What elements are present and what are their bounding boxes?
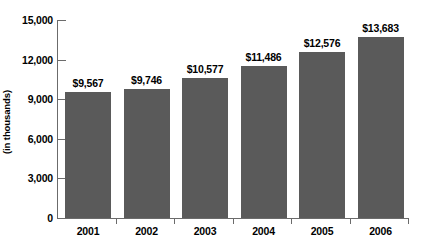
y-axis-tick-label: 12,000 xyxy=(9,55,53,66)
bar-value-label: $13,683 xyxy=(351,23,411,34)
bar xyxy=(124,89,170,218)
y-axis-tick-label: 6,000 xyxy=(9,134,53,145)
y-axis-tick-label: 3,000 xyxy=(9,173,53,184)
x-axis-tick-mark xyxy=(350,219,351,224)
x-axis-tick-mark xyxy=(116,219,117,224)
bars-layer xyxy=(57,20,409,218)
bar-chart: (in thousands) 03,0006,0009,00012,00015,… xyxy=(0,0,421,248)
x-axis-tick-label: 2002 xyxy=(117,226,177,237)
x-axis-tick-label: 2001 xyxy=(58,226,118,237)
y-axis-tick-labels: 03,0006,0009,00012,00015,000 xyxy=(8,0,53,248)
bar-value-label: $9,746 xyxy=(117,75,177,86)
x-axis-tick-mark xyxy=(174,219,175,224)
bar xyxy=(65,92,111,218)
bar xyxy=(358,37,404,218)
bar xyxy=(241,66,287,218)
bar-value-label: $12,576 xyxy=(292,38,352,49)
bar-value-label: $10,577 xyxy=(175,64,235,75)
bar-value-label: $11,486 xyxy=(234,52,294,63)
x-axis-tick-label: 2004 xyxy=(234,226,294,237)
x-axis-tick-label: 2003 xyxy=(175,226,235,237)
y-axis-tick-label: 9,000 xyxy=(9,94,53,105)
x-axis-tick-mark xyxy=(291,219,292,224)
x-axis-tick-mark xyxy=(408,219,409,224)
bar xyxy=(182,78,228,218)
bar xyxy=(299,52,345,218)
bar-value-label: $9,567 xyxy=(58,78,118,89)
x-axis-tick-labels: 200120022003200420052006 xyxy=(57,226,409,244)
y-axis-tick-label: 0 xyxy=(9,213,53,224)
x-axis-tick-label: 2006 xyxy=(351,226,411,237)
x-axis-tick-mark xyxy=(233,219,234,224)
x-axis-tick-label: 2005 xyxy=(292,226,352,237)
y-axis-tick-label: 15,000 xyxy=(9,15,53,26)
